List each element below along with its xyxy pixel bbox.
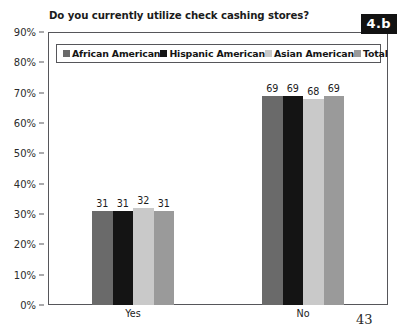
y-axis-tick-mark	[39, 92, 44, 93]
bar	[324, 96, 345, 305]
y-axis-tick-mark	[39, 214, 44, 215]
legend-item: Asian American	[265, 48, 354, 59]
y-axis-tick-label: 30%	[14, 209, 36, 220]
y-axis-tick-mark	[39, 123, 44, 124]
y-axis: 0%10%20%30%40%50%60%70%80%90%	[0, 32, 44, 305]
legend-label: Total	[363, 48, 388, 59]
legend-swatch-icon	[160, 50, 167, 57]
figure-container: Do you currently utilize check cashing s…	[0, 0, 414, 336]
bar-value-label: 69	[328, 83, 340, 94]
bar	[303, 99, 324, 305]
y-axis-tick-label: 80%	[14, 57, 36, 68]
bar	[113, 211, 134, 305]
chart-title: Do you currently utilize check cashing s…	[49, 10, 309, 21]
legend-swatch-icon	[354, 50, 361, 57]
legend-label: Asian American	[274, 48, 354, 59]
bar	[92, 211, 113, 305]
bar-value-label: 69	[266, 83, 278, 94]
bar-value-label: 31	[117, 198, 129, 209]
y-axis-tick-mark	[39, 305, 44, 306]
y-axis-tick-label: 60%	[14, 118, 36, 129]
bar	[133, 208, 154, 305]
bar	[262, 96, 283, 305]
bar-value-label: 31	[158, 198, 170, 209]
y-axis-tick-label: 20%	[14, 239, 36, 250]
bar	[283, 96, 304, 305]
bar-value-label: 69	[287, 83, 299, 94]
legend-item: Hispanic American	[160, 48, 265, 59]
y-axis-tick-mark	[39, 244, 44, 245]
x-axis-tick-label: No	[296, 308, 309, 319]
y-axis-tick-label: 50%	[14, 148, 36, 159]
y-axis-tick-mark	[39, 62, 44, 63]
y-axis-tick-mark	[39, 274, 44, 275]
legend-swatch-icon	[265, 50, 272, 57]
y-axis-tick-label: 10%	[14, 269, 36, 280]
page-number: 43	[356, 312, 373, 327]
y-axis-tick-label: 40%	[14, 178, 36, 189]
y-axis-tick-mark	[39, 153, 44, 154]
bars-layer: 3131323169696869	[48, 32, 388, 305]
y-axis-tick-label: 90%	[14, 27, 36, 38]
y-axis-tick-mark	[39, 32, 44, 33]
legend-label: African American	[72, 48, 160, 59]
bar-value-label: 32	[137, 195, 149, 206]
bar	[154, 211, 175, 305]
legend-label: Hispanic American	[169, 48, 265, 59]
figure-number-badge: 4.b	[361, 14, 398, 34]
y-axis-tick-mark	[39, 183, 44, 184]
chart-legend: African AmericanHispanic AmericanAsian A…	[56, 44, 381, 63]
x-axis: YesNo	[48, 308, 388, 326]
y-axis-tick-label: 70%	[14, 87, 36, 98]
x-axis-tick-label: Yes	[125, 308, 141, 319]
y-axis-tick-label: 0%	[20, 300, 36, 311]
bar-value-label: 68	[307, 86, 319, 97]
legend-item: African American	[63, 48, 160, 59]
legend-item: Total	[354, 48, 388, 59]
legend-swatch-icon	[63, 50, 70, 57]
bar-value-label: 31	[96, 198, 108, 209]
